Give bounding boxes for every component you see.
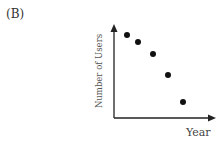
- data-point: [135, 39, 141, 45]
- axes: [111, 24, 217, 122]
- x-axis-label: Year: [186, 126, 211, 139]
- data-point: [124, 32, 130, 38]
- y-axis-arrow-icon: [111, 24, 118, 32]
- x-axis-arrow-icon: [208, 115, 216, 122]
- data-point: [150, 51, 156, 57]
- data-point: [180, 99, 186, 105]
- data-point: [165, 72, 171, 78]
- data-points: [124, 32, 186, 105]
- y-axis-label: Number of Users: [94, 34, 104, 108]
- scatter-plot: [0, 0, 224, 144]
